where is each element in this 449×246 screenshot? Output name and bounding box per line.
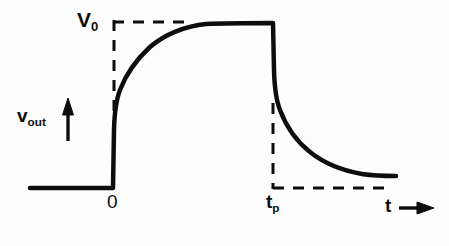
x-axis-label-t: t (385, 196, 391, 215)
vout-response-curve (30, 23, 396, 188)
figure-container: V0 vout 0 tp t (0, 0, 449, 246)
pulse-response-plot (0, 0, 449, 246)
arrow-up-icon (63, 98, 74, 141)
arrow-right-icon (399, 202, 434, 214)
x-tick-label-tp-subscript: p (272, 201, 279, 214)
y-level-label-subscript: 0 (91, 19, 98, 34)
y-axis-label-base: v (17, 105, 28, 126)
y-level-label-base: V (77, 8, 91, 31)
y-level-label-v0: V0 (77, 9, 98, 30)
x-tick-label-tp: tp (266, 192, 280, 211)
x-tick-label-origin: 0 (107, 192, 118, 211)
y-axis-label-subscript: out (28, 115, 46, 128)
y-axis-label-vout: vout (17, 106, 46, 125)
